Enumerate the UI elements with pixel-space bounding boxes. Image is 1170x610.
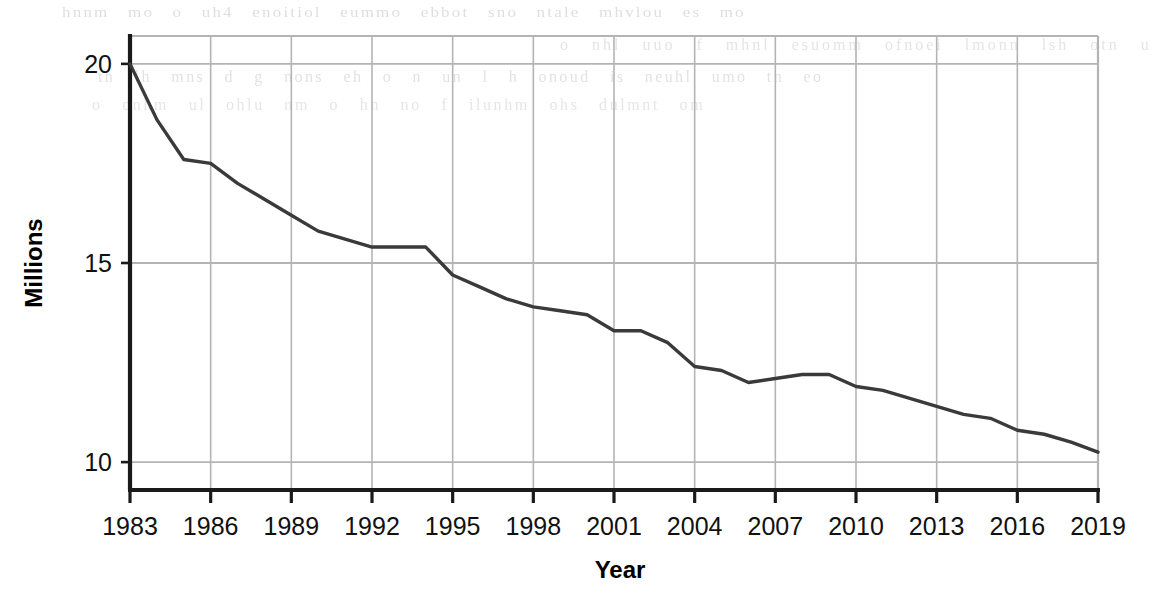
x-axis-tick-label: 2013 xyxy=(909,512,965,540)
x-axis-tick-label: 2007 xyxy=(748,512,804,540)
x-axis-tick-label: 1986 xyxy=(183,512,239,540)
line-chart-figure: hnnm mo o uh4 enoitiol eummo ebbot sno n… xyxy=(0,0,1170,610)
x-axis-tick-label: 2019 xyxy=(1070,512,1126,540)
x-axis-tick-label: 1998 xyxy=(506,512,562,540)
x-axis-tick-label: 2004 xyxy=(667,512,723,540)
x-axis-tick-label: 1992 xyxy=(344,512,400,540)
x-axis-title: Year xyxy=(595,556,646,583)
x-axis-tick-label: 1983 xyxy=(102,512,158,540)
x-axis-tick-label: 2001 xyxy=(586,512,642,540)
chart-plot-area: 101520 198319861989199219951998200120042… xyxy=(0,0,1170,610)
y-axis-tick-label: 20 xyxy=(84,50,112,78)
y-axis-tick-label: 10 xyxy=(84,448,112,476)
x-axis-tick-label: 1995 xyxy=(425,512,481,540)
y-axis-tick-label: 15 xyxy=(84,249,112,277)
x-axis-tick-label: 1989 xyxy=(264,512,320,540)
y-axis-title: Millions xyxy=(20,218,47,307)
axis-ticks xyxy=(121,64,1098,503)
x-axis-tick-label: 2016 xyxy=(990,512,1046,540)
x-axis-tick-label: 2010 xyxy=(828,512,884,540)
x-axis-tick-labels: 1983198619891992199519982001200420072010… xyxy=(102,512,1126,540)
y-axis-tick-labels: 101520 xyxy=(84,50,112,476)
